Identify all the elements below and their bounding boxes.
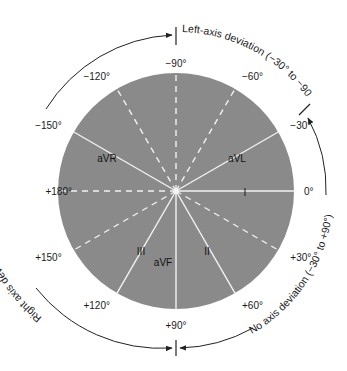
no-deviation-arrow-arc-lower bbox=[180, 328, 253, 348]
degree-label: −90° bbox=[166, 58, 187, 69]
degree-label: 0° bbox=[304, 186, 314, 197]
lead-label-i: I bbox=[244, 187, 247, 198]
lead-label-ii: II bbox=[204, 246, 210, 257]
degree-label: −150° bbox=[35, 120, 62, 131]
degree-label: +150° bbox=[35, 252, 62, 263]
degree-label: −30° bbox=[290, 120, 311, 131]
right-axis-deviation-label: Right axis deviation (+90° to −90°) bbox=[0, 175, 43, 325]
lead-label-iii: III bbox=[137, 246, 145, 257]
degree-label: +60° bbox=[242, 300, 263, 311]
degree-label: −60° bbox=[242, 71, 263, 82]
center-point bbox=[173, 188, 179, 194]
boundary-tick-right bbox=[299, 104, 310, 115]
hexaxial-diagram: 0°−30°−60°−90°−120°−150°+180°+150°+120°+… bbox=[0, 0, 347, 371]
degree-label: +120° bbox=[83, 300, 110, 311]
degree-label: +180° bbox=[45, 186, 72, 197]
lead-label-avl: aVL bbox=[228, 153, 246, 164]
lead-label-avr: aVR bbox=[97, 153, 116, 164]
lead-label-avf: aVF bbox=[154, 257, 172, 268]
degree-label: +90° bbox=[166, 320, 187, 331]
degree-label: −120° bbox=[83, 71, 110, 82]
